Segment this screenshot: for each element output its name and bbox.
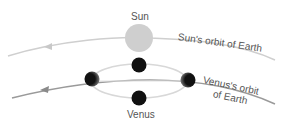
venus-right-icon bbox=[181, 73, 196, 88]
venus-top-icon bbox=[132, 58, 147, 73]
venus-bottom-icon bbox=[132, 91, 147, 106]
sun-orbit-arrow-icon bbox=[44, 43, 52, 50]
venus-label: Venus bbox=[127, 110, 155, 120]
sun-icon bbox=[125, 24, 153, 52]
venus-left-icon bbox=[85, 72, 100, 87]
sun-label: Sun bbox=[131, 12, 149, 22]
